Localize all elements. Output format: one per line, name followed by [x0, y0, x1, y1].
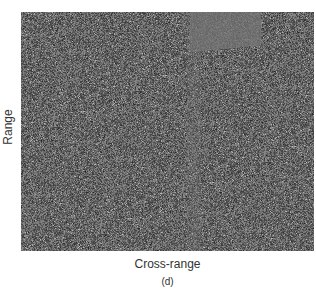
y-axis-label: Range: [1, 105, 15, 149]
x-axis-label: Cross-range: [21, 257, 314, 271]
figure: Range Cross-range (d): [0, 0, 316, 289]
figure-caption: (d): [21, 276, 314, 287]
sar-speckle-image: [21, 12, 314, 251]
speckle-canvas: [21, 12, 314, 251]
